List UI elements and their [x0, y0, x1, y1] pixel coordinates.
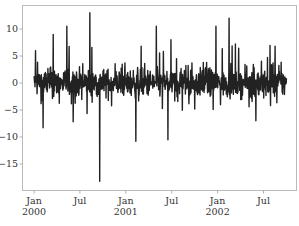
y-tick-label: −15 [0, 158, 18, 169]
x-tick-label-year: 2000 [22, 206, 46, 217]
y-axis: 1050−5−10−15 [0, 23, 23, 169]
x-tick-label-month: Jan [25, 195, 42, 206]
x-tick-label-month: Jan [209, 195, 226, 206]
y-tick-label: 10 [6, 23, 18, 34]
x-axis: Jan2000JulJan2001JulJan2002Jul [22, 191, 270, 218]
x-tick-label-month: Jan [117, 195, 134, 206]
y-tick-label: 5 [12, 50, 18, 61]
time-series-chart: 1050−5−10−15 Jan2000JulJan2001JulJan2002… [0, 0, 299, 226]
x-tick-label-year: 2001 [114, 206, 138, 217]
x-tick-label-month: Jul [256, 195, 270, 206]
x-tick-label-month: Jul [164, 195, 178, 206]
x-tick-label-month: Jul [72, 195, 86, 206]
y-tick-label: 0 [12, 77, 18, 88]
x-tick-label-year: 2002 [206, 206, 230, 217]
y-tick-label: −10 [0, 131, 18, 142]
y-tick-label: −5 [4, 104, 18, 115]
